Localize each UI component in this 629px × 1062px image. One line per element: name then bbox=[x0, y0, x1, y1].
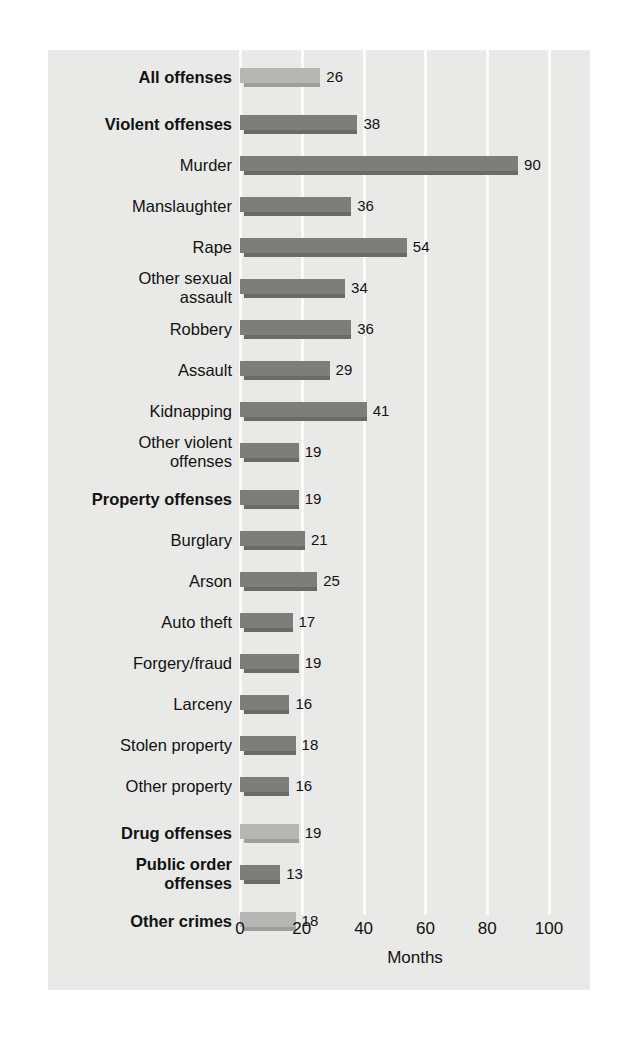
bar-value-label: 16 bbox=[295, 776, 312, 795]
category-label: Property offenses bbox=[42, 490, 232, 509]
bar-value-label: 21 bbox=[311, 530, 328, 549]
bar bbox=[240, 572, 317, 591]
bar-value-label: 29 bbox=[336, 360, 353, 379]
bar-face bbox=[240, 115, 357, 130]
bar-value-label: 19 bbox=[305, 823, 322, 842]
bar-row: 34 bbox=[240, 279, 590, 298]
bar bbox=[240, 531, 305, 550]
bar-row: 21 bbox=[240, 531, 590, 550]
bar bbox=[240, 279, 345, 298]
bar-face bbox=[240, 320, 351, 335]
x-axis-tick-labels: 020406080100 bbox=[240, 918, 590, 948]
bar-face bbox=[240, 402, 367, 417]
category-label: All offenses bbox=[42, 68, 232, 87]
bar-value-label: 19 bbox=[305, 489, 322, 508]
bar-value-label: 25 bbox=[323, 571, 340, 590]
chart-plot-panel: 2638903654343629411919212517191618161913… bbox=[48, 50, 590, 990]
bar bbox=[240, 613, 293, 632]
category-label: Larceny bbox=[42, 695, 232, 714]
category-label: Burglary bbox=[42, 531, 232, 550]
bar bbox=[240, 402, 367, 421]
bar-row: 29 bbox=[240, 361, 590, 380]
bar-shadow-lip bbox=[244, 417, 367, 421]
bar-row: 19 bbox=[240, 490, 590, 509]
bar-face bbox=[240, 777, 289, 792]
bar-shadow-lip bbox=[244, 546, 305, 550]
bar-face bbox=[240, 695, 289, 710]
bar-face bbox=[240, 654, 299, 669]
bar-row: 36 bbox=[240, 197, 590, 216]
bar bbox=[240, 490, 299, 509]
category-label: Murder bbox=[42, 156, 232, 175]
bar-row: 36 bbox=[240, 320, 590, 339]
bar-value-label: 26 bbox=[326, 67, 343, 86]
bar-shadow-lip bbox=[244, 710, 289, 714]
bar bbox=[240, 361, 330, 380]
bar-face bbox=[240, 736, 296, 751]
bar-row: 38 bbox=[240, 115, 590, 134]
x-axis-title: Months bbox=[240, 948, 590, 968]
bar-row: 41 bbox=[240, 402, 590, 421]
bar-shadow-lip bbox=[244, 212, 351, 216]
bar bbox=[240, 115, 357, 134]
bar-value-label: 17 bbox=[299, 612, 316, 631]
bar-value-label: 19 bbox=[305, 442, 322, 461]
bar bbox=[240, 320, 351, 339]
bar-face bbox=[240, 490, 299, 505]
bar bbox=[240, 443, 299, 462]
category-label: Violent offenses bbox=[42, 115, 232, 134]
category-label: Rape bbox=[42, 238, 232, 257]
bar-row: 16 bbox=[240, 777, 590, 796]
x-tick-label: 60 bbox=[416, 918, 435, 940]
x-tick-label: 100 bbox=[535, 918, 563, 940]
bar-row: 19 bbox=[240, 654, 590, 673]
category-label: Assault bbox=[42, 361, 232, 380]
x-tick-label: 40 bbox=[354, 918, 373, 940]
bar-face bbox=[240, 865, 280, 880]
bar bbox=[240, 865, 280, 884]
bar-value-label: 54 bbox=[413, 237, 430, 256]
category-label: Other property bbox=[42, 777, 232, 796]
bar-value-label: 36 bbox=[357, 319, 374, 338]
bar-shadow-lip bbox=[244, 751, 296, 755]
bar bbox=[240, 197, 351, 216]
bar-row: 18 bbox=[240, 736, 590, 755]
bar-row: 19 bbox=[240, 443, 590, 462]
bar-value-label: 13 bbox=[286, 864, 303, 883]
bar-face bbox=[240, 531, 305, 546]
bar-shadow-lip bbox=[244, 376, 330, 380]
category-label: Stolen property bbox=[42, 736, 232, 755]
bar-value-label: 34 bbox=[351, 278, 368, 297]
bar-shadow-lip bbox=[244, 253, 407, 257]
bar-row: 16 bbox=[240, 695, 590, 714]
category-label: Other sexual assault bbox=[42, 269, 232, 307]
bar-row: 54 bbox=[240, 238, 590, 257]
category-label: Drug offenses bbox=[42, 824, 232, 843]
category-label: Public order offenses bbox=[42, 855, 232, 893]
category-label: Kidnapping bbox=[42, 402, 232, 421]
bar bbox=[240, 68, 320, 87]
bar-shadow-lip bbox=[244, 669, 299, 673]
category-label-column: All offensesViolent offensesMurderMansla… bbox=[48, 50, 240, 915]
bar-row: 26 bbox=[240, 68, 590, 87]
bar-value-label: 18 bbox=[302, 735, 319, 754]
x-tick-label: 80 bbox=[478, 918, 497, 940]
bar-face bbox=[240, 279, 345, 294]
bar-face bbox=[240, 572, 317, 587]
bar-row: 25 bbox=[240, 572, 590, 591]
bar-face bbox=[240, 443, 299, 458]
bar-shadow-lip bbox=[244, 505, 299, 509]
bar bbox=[240, 736, 296, 755]
bar-shadow-lip bbox=[244, 458, 299, 462]
bar-face bbox=[240, 824, 299, 839]
bar-value-label: 41 bbox=[373, 401, 390, 420]
bar-face bbox=[240, 613, 293, 628]
bar bbox=[240, 238, 407, 257]
category-label: Robbery bbox=[42, 320, 232, 339]
category-label: Forgery/fraud bbox=[42, 654, 232, 673]
bar-value-label: 36 bbox=[357, 196, 374, 215]
bar-shadow-lip bbox=[244, 130, 357, 134]
bar bbox=[240, 777, 289, 796]
bar-face bbox=[240, 361, 330, 376]
bar-row: 90 bbox=[240, 156, 590, 175]
